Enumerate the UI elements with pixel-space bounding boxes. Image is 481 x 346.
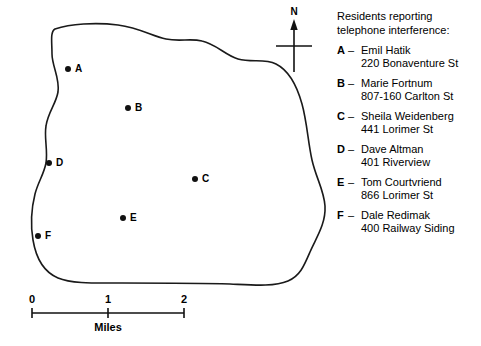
- legend-key: E: [337, 176, 344, 190]
- map-canvas: A B C D E F N: [0, 0, 340, 346]
- legend-separator: –: [348, 176, 354, 190]
- map-point-dot: [65, 66, 71, 72]
- scale-tick-label-2: 2: [181, 293, 187, 306]
- map-point-label: C: [202, 172, 209, 185]
- legend-entry-d: D – Dave Altman 401 Riverview: [337, 143, 481, 170]
- map-point-dot: [35, 233, 41, 239]
- legend-key: D: [337, 143, 345, 157]
- legend-separator: –: [348, 110, 354, 124]
- legend-separator: –: [348, 44, 354, 58]
- legend-separator: –: [348, 77, 354, 91]
- legend-key: F: [337, 209, 344, 223]
- map-point-label: A: [75, 62, 82, 75]
- map-point-dot: [46, 160, 52, 166]
- map-point-label: D: [56, 156, 63, 169]
- legend-resident-address: 807-160 Carlton St: [361, 90, 453, 104]
- map-point-label: B: [135, 101, 142, 114]
- legend-resident-name: Emil Hatik: [361, 44, 411, 58]
- legend-entry-f: F – Dale Redimak 400 Railway Siding: [337, 209, 481, 236]
- legend-entry-c: C – Sheila Weidenberg 441 Lorimer St: [337, 110, 481, 137]
- scale-tick-label-1: 1: [105, 293, 111, 306]
- legend-separator: –: [348, 209, 354, 223]
- legend-entry-e: E – Tom Courtvriend 866 Lorimer St: [337, 176, 481, 203]
- legend-heading: Residents reporting telephone interferen…: [337, 10, 481, 37]
- scale-units-label: Miles: [20, 321, 196, 334]
- legend-resident-address: 400 Railway Siding: [361, 222, 455, 236]
- map-point-dot: [125, 105, 131, 111]
- legend-separator: –: [348, 143, 354, 157]
- compass-rose: N: [272, 6, 316, 76]
- legend-resident-address: 866 Lorimer St: [361, 189, 433, 203]
- legend-panel: Residents reporting telephone interferen…: [337, 10, 481, 242]
- legend-resident-name: Marie Fortnum: [361, 77, 433, 91]
- scale-bar: 0 1 2 Miles: [20, 293, 210, 339]
- legend-resident-name: Sheila Weidenberg: [361, 110, 454, 124]
- scale-bar-graphic: [20, 307, 210, 321]
- legend-key: C: [337, 110, 345, 124]
- map-point-label: E: [130, 211, 137, 224]
- legend-resident-address: 401 Riverview: [361, 156, 430, 170]
- legend-resident-name: Dale Redimak: [361, 209, 430, 223]
- legend-entry-b: B – Marie Fortnum 807-160 Carlton St: [337, 77, 481, 104]
- map-point-label: F: [45, 229, 51, 242]
- map-point-dot: [192, 176, 198, 182]
- legend-key: A: [337, 44, 345, 58]
- legend-resident-name: Tom Courtvriend: [361, 176, 442, 190]
- legend-entry-a: A – Emil Hatik 220 Bonaventure St: [337, 44, 481, 71]
- legend-resident-name: Dave Altman: [361, 143, 423, 157]
- map-point-dot: [120, 215, 126, 221]
- map-figure: A B C D E F N: [0, 0, 481, 346]
- legend-resident-address: 220 Bonaventure St: [361, 57, 458, 71]
- legend-resident-address: 441 Lorimer St: [361, 123, 433, 137]
- compass-north-label: N: [272, 6, 316, 18]
- scale-tick-label-0: 0: [29, 293, 35, 306]
- legend-key: B: [337, 77, 345, 91]
